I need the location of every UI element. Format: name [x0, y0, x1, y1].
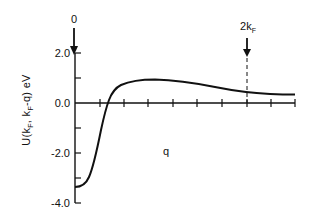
y-tick-label: -4.0: [51, 197, 70, 209]
y-tick-label: -2.0: [51, 147, 70, 159]
data-curve: [75, 80, 295, 188]
x-axis-label: q: [163, 145, 169, 157]
zero-marker-label: 0: [71, 13, 77, 25]
two-kf-marker-label: 2kF: [240, 20, 256, 34]
y-tick-label: 2.0: [55, 47, 70, 59]
y-tick-label: 0.0: [55, 97, 70, 109]
y-ticks: [75, 53, 81, 203]
chart-canvas: [0, 0, 310, 217]
zero-arrow-icon: [70, 28, 78, 55]
y-axis-label: U(kF, kF-q) eV: [20, 74, 34, 145]
